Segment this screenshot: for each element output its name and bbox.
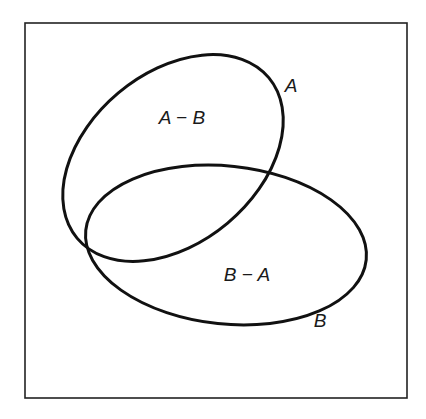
set-a-ellipse	[23, 13, 324, 304]
region-label-b-minus-a: B − A	[224, 264, 270, 285]
set-label-a: A	[284, 75, 298, 96]
region-label-a-minus-b: A − B	[158, 107, 206, 128]
universe-box	[25, 23, 407, 398]
venn-diagram: A − B B − A A B	[0, 0, 426, 419]
set-b-ellipse	[78, 152, 375, 339]
set-label-b: B	[314, 310, 327, 331]
